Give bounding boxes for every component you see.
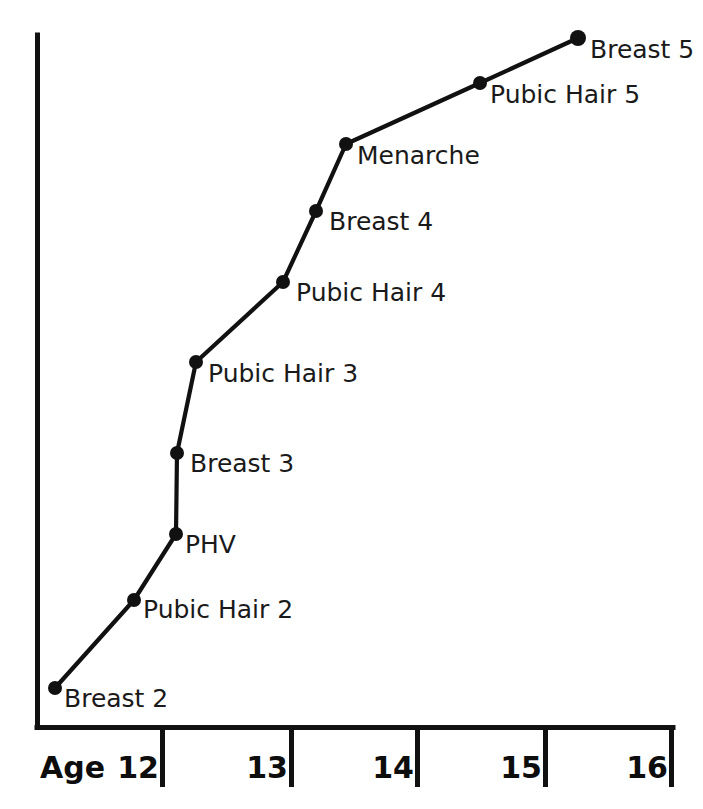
x-axis-labels: Age 12 13 14 15 16 <box>40 750 668 785</box>
marker-breast-4 <box>309 204 323 218</box>
marker-pubic-hair-3 <box>189 355 203 369</box>
marker-phv <box>169 527 183 541</box>
marker-breast-2 <box>48 681 62 695</box>
label-breast-2: Breast 2 <box>64 684 168 713</box>
marker-pubic-hair-5 <box>473 76 487 90</box>
label-phv: PHV <box>185 530 236 559</box>
label-pubic-hair-3: Pubic Hair 3 <box>208 359 358 388</box>
x-tick-label-14: 14 <box>372 750 414 785</box>
marker-menarche <box>339 137 353 151</box>
label-menarche: Menarche <box>357 141 480 170</box>
x-tick-label-15: 15 <box>500 750 542 785</box>
label-pubic-hair-2: Pubic Hair 2 <box>143 595 293 624</box>
x-axis-title: Age <box>40 750 105 785</box>
pubertal-sequence-chart: Breast 2 Pubic Hair 2 PHV Breast 3 Pubic… <box>0 0 703 809</box>
chart-canvas: Breast 2 Pubic Hair 2 PHV Breast 3 Pubic… <box>0 0 703 809</box>
marker-breast-3 <box>170 446 184 460</box>
label-breast-5: Breast 5 <box>590 35 694 64</box>
x-axis-ticks <box>163 727 672 787</box>
label-breast-3: Breast 3 <box>190 449 294 478</box>
x-tick-label-16: 16 <box>626 750 668 785</box>
label-pubic-hair-5: Pubic Hair 5 <box>490 80 640 109</box>
marker-breast-5 <box>570 30 586 46</box>
marker-pubic-hair-2 <box>127 593 141 607</box>
x-tick-label-12: 12 <box>117 750 159 785</box>
milestone-labels: Breast 2 Pubic Hair 2 PHV Breast 3 Pubic… <box>64 35 694 713</box>
label-breast-4: Breast 4 <box>329 207 433 236</box>
label-pubic-hair-4: Pubic Hair 4 <box>296 278 446 307</box>
marker-pubic-hair-4 <box>276 275 290 289</box>
x-tick-label-13: 13 <box>246 750 288 785</box>
